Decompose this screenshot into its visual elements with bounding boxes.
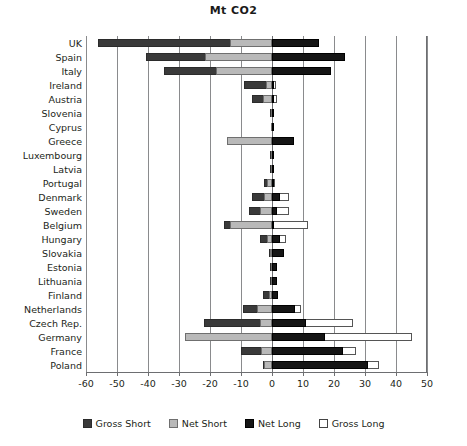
x-tick-mark--60 (86, 372, 87, 376)
y-axis-category-labels: UKSpainItalyIrelandAustriaSloveniaCyprus… (0, 36, 82, 372)
bar-net-long-italy (272, 67, 331, 74)
x-tick-mark-0 (272, 372, 273, 376)
bar-net-long-slovakia (272, 249, 284, 256)
bar-net-long-luxembourg (272, 151, 274, 158)
bar-net-short-denmark (264, 193, 272, 200)
x-tick-mark-20 (334, 372, 335, 376)
bar-net-short-france (261, 347, 272, 354)
x-tick-mark-30 (365, 372, 366, 376)
legend-item-gross-short: Gross Short (83, 418, 151, 429)
bar-net-long-estonia (272, 263, 277, 270)
bar-net-long-hungary (272, 235, 280, 242)
x-tick-label-50: 50 (407, 378, 447, 389)
x-tick-mark-40 (396, 372, 397, 376)
legend-swatch-net-long-icon (245, 419, 254, 428)
bar-net-short-poland (264, 361, 272, 368)
gridline--30 (179, 36, 180, 372)
chart-title: Mt CO2 (0, 4, 467, 17)
bar-net-short-uk (230, 39, 272, 46)
bar-net-long-cyprus (272, 123, 274, 130)
bar-net-long-uk (272, 39, 319, 46)
legend-item-net-short: Net Short (169, 418, 227, 429)
y-axis-label-portugal: Portugal (0, 178, 86, 189)
y-axis-label-denmark: Denmark (0, 192, 86, 203)
bar-net-short-germany (185, 333, 272, 340)
y-axis-label-hungary: Hungary (0, 234, 86, 245)
bar-net-long-slovenia (272, 109, 274, 116)
bar-net-short-sweden (260, 207, 272, 214)
y-axis-label-sweden: Sweden (0, 206, 86, 217)
bar-net-short-czech-rep (260, 319, 272, 326)
bar-net-long-finland (272, 291, 278, 298)
y-axis-label-spain: Spain (0, 52, 86, 63)
bar-net-short-netherlands (257, 305, 273, 312)
bar-net-long-greece (272, 137, 294, 144)
y-axis-label-italy: Italy (0, 66, 86, 77)
gridline-30 (365, 36, 366, 372)
bar-net-short-greece (227, 137, 272, 144)
legend-label-net-long: Net Long (258, 418, 301, 429)
gridline-40 (396, 36, 397, 372)
gridline-50 (427, 36, 428, 372)
legend-item-gross-long: Gross Long (319, 418, 385, 429)
bar-net-long-netherlands (272, 305, 295, 312)
bar-net-long-latvia (272, 165, 274, 172)
bar-net-long-austria (272, 95, 274, 102)
y-axis-label-slovakia: Slovakia (0, 248, 86, 259)
x-tick-mark--20 (210, 372, 211, 376)
bar-net-long-ireland (272, 81, 274, 88)
y-axis-label-austria: Austria (0, 94, 86, 105)
bar-net-short-belgium (230, 221, 272, 228)
x-axis-line (86, 372, 427, 373)
legend-item-net-long: Net Long (245, 418, 301, 429)
bar-net-long-belgium (272, 221, 274, 228)
bar-net-long-czech-rep (272, 319, 306, 326)
bar-net-long-spain (272, 53, 345, 60)
y-axis-label-france: France (0, 346, 86, 357)
x-tick-mark--50 (117, 372, 118, 376)
y-axis-label-lithuania: Lithuania (0, 276, 86, 287)
x-tick-mark--10 (241, 372, 242, 376)
y-axis-label-ireland: Ireland (0, 80, 86, 91)
legend-label-gross-short: Gross Short (96, 418, 151, 429)
legend-swatch-gross-short-icon (83, 419, 92, 428)
y-axis-label-estonia: Estonia (0, 262, 86, 273)
legend-swatch-gross-long-icon (319, 419, 328, 428)
y-axis-label-luxembourg: Luxembourg (0, 150, 86, 161)
y-axis-label-netherlands: Netherlands (0, 304, 86, 315)
y-axis-label-czech-rep: Czech Rep. (0, 318, 86, 329)
bar-net-short-italy (216, 67, 272, 74)
bar-net-long-poland (272, 361, 368, 368)
gridline--50 (117, 36, 118, 372)
bar-net-long-denmark (272, 193, 280, 200)
y-axis-label-finland: Finland (0, 290, 86, 301)
legend-label-gross-long: Gross Long (332, 418, 385, 429)
gridline--40 (148, 36, 149, 372)
y-axis-label-latvia: Latvia (0, 164, 86, 175)
y-axis-label-belgium: Belgium (0, 220, 86, 231)
legend-swatch-net-short-icon (169, 419, 178, 428)
bar-net-long-france (272, 347, 343, 354)
x-tick-mark-50 (427, 372, 428, 376)
y-axis-label-slovenia: Slovenia (0, 108, 86, 119)
bar-net-short-spain (205, 53, 272, 60)
chart-legend: Gross Short Net Short Net Long Gross Lon… (0, 418, 467, 429)
y-axis-label-germany: Germany (0, 332, 86, 343)
bar-net-long-lithuania (272, 277, 277, 284)
chart-root: Mt CO2 -60-50-40-30-20-1001020304050 UKS… (0, 0, 467, 446)
y-axis-label-poland: Poland (0, 360, 86, 371)
x-tick-mark-10 (303, 372, 304, 376)
bar-gross-long-belgium (272, 221, 308, 228)
legend-label-net-short: Net Short (182, 418, 227, 429)
bar-net-long-portugal (272, 179, 274, 186)
y-axis-label-greece: Greece (0, 136, 86, 147)
bar-net-long-germany (272, 333, 325, 340)
y-axis-label-uk: UK (0, 38, 86, 49)
bar-net-short-austria (263, 95, 272, 102)
y-axis-label-cyprus: Cyprus (0, 122, 86, 133)
x-tick-mark--40 (148, 372, 149, 376)
x-tick-mark--30 (179, 372, 180, 376)
bar-net-long-sweden (272, 207, 277, 214)
